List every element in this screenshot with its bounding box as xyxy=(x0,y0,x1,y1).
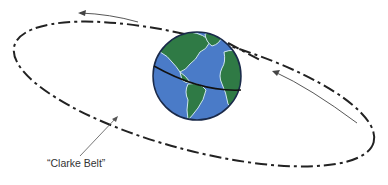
clarke-belt-diagram: “Clarke Belt” xyxy=(0,0,388,185)
clarke-belt-label: “Clarke Belt” xyxy=(47,157,105,169)
right-direction-arrow-icon xyxy=(272,70,357,123)
label-leader-line xyxy=(80,116,118,156)
top-direction-arrow-icon xyxy=(78,10,138,22)
earth-globe-icon xyxy=(153,32,242,120)
